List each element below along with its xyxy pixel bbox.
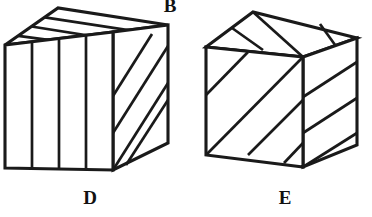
cube-d-front-face [5,32,113,170]
cube-e-right-face [303,38,357,167]
cube-d-right-face [113,25,168,170]
two-cubes-diagram [0,0,372,217]
label-b: B [150,0,190,15]
figure-canvas: B D E [0,0,372,217]
cube-d [5,8,168,170]
label-d: D [70,188,110,207]
label-e: E [265,188,305,207]
cube-e [206,12,357,167]
cube-e-front-face [206,47,303,167]
